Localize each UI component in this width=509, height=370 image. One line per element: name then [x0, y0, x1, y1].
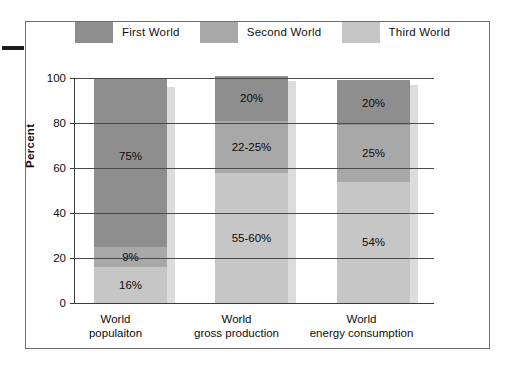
bar-world-gross-production[interactable]: 55-60% 22-25% 20%: [215, 78, 288, 303]
tick-mark-0: [70, 303, 75, 304]
segment-label-second-world-population: 9%: [122, 251, 139, 263]
segment-third-world-gross-production: 55-60%: [215, 173, 288, 304]
legend-swatch-second-world: [200, 22, 238, 43]
tick-mark-80: [70, 123, 75, 124]
segment-first-world-gross-production: 20%: [215, 76, 288, 121]
legend-label-third-world: Third World: [389, 26, 450, 38]
bar-shadow-world-population: [167, 87, 175, 303]
x-axis-label-world-gross-production-line2: gross production: [174, 326, 299, 340]
legend-item-third-world: Third World: [342, 22, 450, 43]
x-axis-label-world-energy-consumption: World energy consumption: [294, 312, 429, 340]
plot-area: 100 80 60 40 20 0 16% 9% 75%: [74, 78, 434, 304]
segment-label-second-world-energy-consumption: 25%: [362, 147, 385, 159]
segment-label-first-world-population: 75%: [119, 150, 142, 162]
x-axis-label-world-population-line1: World: [53, 312, 178, 326]
bar-world-population[interactable]: 16% 9% 75%: [94, 78, 167, 303]
legend-label-second-world: Second World: [247, 26, 321, 38]
legend-item-second-world: Second World: [200, 22, 321, 43]
gridline-100: 100: [75, 78, 434, 79]
tick-label-60: 60: [53, 162, 66, 174]
segment-second-world-population: 9%: [94, 247, 167, 267]
segment-label-first-world-gross-production: 20%: [240, 92, 263, 104]
x-axis-label-world-gross-production-line1: World: [174, 312, 299, 326]
segment-first-world-population: 75%: [94, 78, 167, 247]
segment-label-third-world-energy-consumption: 54%: [362, 236, 385, 248]
x-axis-label-world-energy-consumption-line1: World: [294, 312, 429, 326]
scan-artifact-dash: [2, 46, 24, 50]
gridline-40: 40: [75, 213, 434, 214]
segment-first-world-energy-consumption: 20%: [337, 80, 410, 125]
gridline-60: 60: [75, 168, 434, 169]
gridline-20: 20: [75, 258, 434, 259]
chart-legend: First World Second World Third World: [75, 17, 450, 47]
gridline-80: 80: [75, 123, 434, 124]
legend-swatch-first-world: [75, 22, 113, 43]
x-axis-label-world-population-line2: populaiton: [53, 326, 178, 340]
x-axis-label-world-energy-consumption-line2: energy consumption: [294, 326, 429, 340]
tick-mark-60: [70, 168, 75, 169]
tick-label-100: 100: [47, 72, 66, 84]
bar-group-world-energy-consumption[interactable]: 54% 25% 20%: [337, 78, 410, 303]
bar-group-world-population[interactable]: 16% 9% 75%: [94, 78, 167, 303]
segment-label-third-world-gross-production: 55-60%: [232, 232, 272, 244]
tick-label-20: 20: [53, 252, 66, 264]
x-axis-label-world-gross-production: World gross production: [174, 312, 299, 340]
legend-item-first-world: First World: [75, 22, 180, 43]
tick-mark-20: [70, 258, 75, 259]
tick-mark-40: [70, 213, 75, 214]
segment-third-world-population: 16%: [94, 267, 167, 303]
gridline-0: 0: [75, 303, 434, 304]
bar-group-world-gross-production[interactable]: 55-60% 22-25% 20%: [215, 78, 288, 303]
segment-second-world-gross-production: 22-25%: [215, 121, 288, 173]
segment-second-world-energy-consumption: 25%: [337, 125, 410, 181]
tick-label-0: 0: [60, 297, 66, 309]
legend-label-first-world: First World: [122, 26, 180, 38]
y-axis-title: Percent: [24, 124, 36, 168]
tick-label-80: 80: [53, 117, 66, 129]
segment-label-second-world-gross-production: 22-25%: [232, 141, 272, 153]
segment-label-first-world-energy-consumption: 20%: [362, 97, 385, 109]
tick-mark-100: [70, 78, 75, 79]
segment-third-world-energy-consumption: 54%: [337, 182, 410, 304]
x-axis-label-world-population: World populaiton: [53, 312, 178, 340]
bar-shadow-world-energy-consumption: [410, 85, 418, 303]
tick-label-40: 40: [53, 207, 66, 219]
segment-label-third-world-population: 16%: [119, 279, 142, 291]
legend-swatch-third-world: [342, 22, 380, 43]
bar-world-energy-consumption[interactable]: 54% 25% 20%: [337, 78, 410, 303]
bar-shadow-world-gross-production: [288, 81, 296, 303]
